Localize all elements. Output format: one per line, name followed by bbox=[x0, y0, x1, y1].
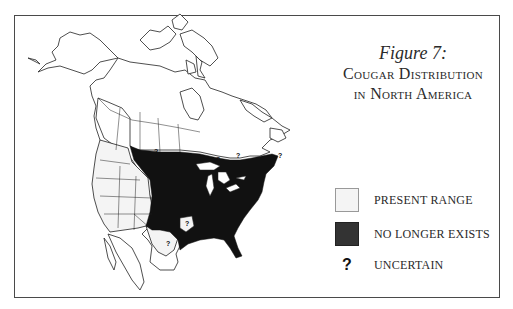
svg-text:?: ? bbox=[216, 156, 220, 163]
legend-item-uncertain: ? UNCERTAIN bbox=[335, 256, 443, 274]
legend-label: UNCERTAIN bbox=[374, 258, 443, 273]
svg-text:?: ? bbox=[188, 152, 192, 159]
question-mark-icon: ? bbox=[335, 256, 359, 274]
alaska-outline bbox=[38, 32, 118, 74]
legend-label: PRESENT RANGE bbox=[374, 193, 473, 208]
legend-label: NO LONGER EXISTS bbox=[374, 227, 490, 242]
no-longer-exists-swatch bbox=[335, 222, 359, 246]
svg-text:?: ? bbox=[166, 240, 170, 247]
present-range-swatch bbox=[335, 188, 359, 212]
svg-text:?: ? bbox=[236, 152, 240, 159]
figure-title: Figure 7: Cougar Distribution in North A… bbox=[318, 42, 508, 104]
title-line-1: Cougar Distribution bbox=[318, 64, 508, 84]
svg-text:?: ? bbox=[185, 220, 189, 227]
legend-item-present-range: PRESENT RANGE bbox=[335, 188, 473, 212]
svg-text:?: ? bbox=[278, 152, 282, 159]
title-line-2: in North America bbox=[318, 84, 508, 104]
legend-item-no-longer-exists: NO LONGER EXISTS bbox=[335, 222, 490, 246]
svg-text:?: ? bbox=[154, 148, 158, 155]
figure-number: Figure 7: bbox=[318, 42, 508, 64]
